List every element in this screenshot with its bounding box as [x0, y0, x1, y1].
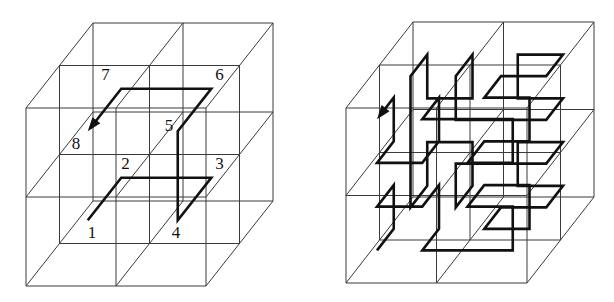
- cube-grid-left: [26, 23, 273, 286]
- vertex-label-8: 8: [72, 134, 81, 153]
- vertex-labels: 12345678: [72, 65, 224, 243]
- hilbert-curve-diagram: 12345678: [0, 0, 614, 302]
- vertex-label-3: 3: [215, 154, 224, 173]
- first-order-hilbert-cube: 12345678: [26, 23, 273, 286]
- vertex-label-6: 6: [215, 65, 224, 84]
- vertex-label-7: 7: [101, 65, 110, 84]
- vertex-label-4: 4: [172, 223, 181, 242]
- vertex-label-1: 1: [88, 223, 97, 242]
- vertex-label-5: 5: [165, 116, 174, 135]
- second-order-hilbert-cube: [346, 22, 594, 283]
- vertex-label-2: 2: [121, 154, 130, 173]
